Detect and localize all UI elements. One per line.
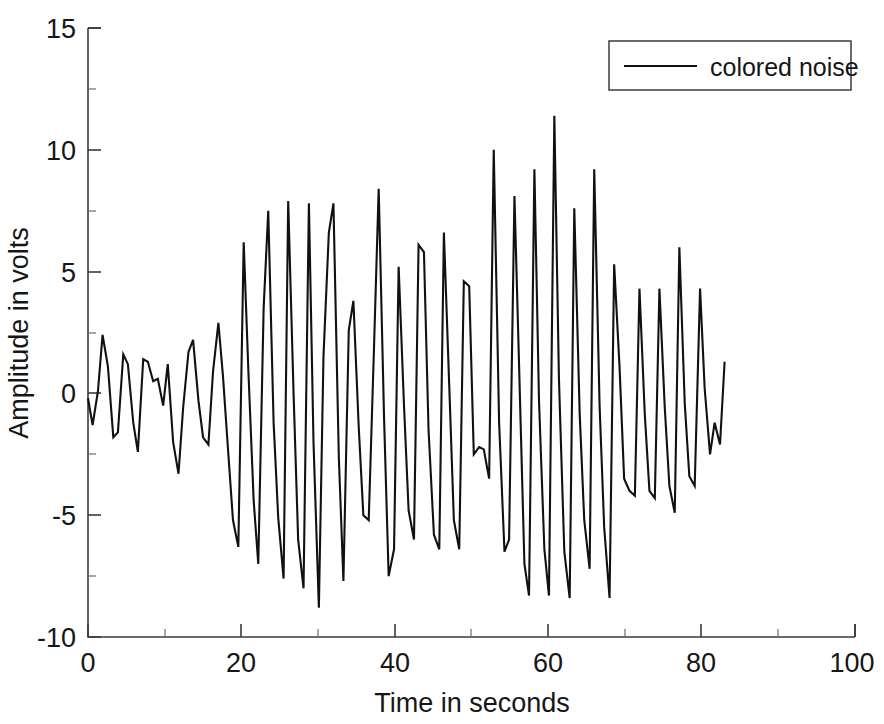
y-tick-label-0: 0 (61, 379, 76, 409)
x-tick-label-100: 100 (829, 648, 874, 678)
chart-figure: 15 10 5 0 -5 -10 0 20 40 60 80 100 Time … (0, 0, 884, 724)
x-axis-title: Time in seconds (374, 688, 570, 718)
y-tick-label-neg5: -5 (52, 501, 76, 531)
x-tick-label-40: 40 (380, 648, 410, 678)
chart-canvas: 15 10 5 0 -5 -10 0 20 40 60 80 100 Time … (0, 0, 884, 724)
legend[interactable]: colored noise (609, 41, 859, 90)
data-series-colored-noise (88, 116, 725, 608)
x-tick-label-0: 0 (80, 648, 95, 678)
x-tick-label-60: 60 (533, 648, 563, 678)
y-tick-label-15: 15 (46, 14, 76, 44)
y-tick-marks (88, 28, 101, 637)
y-tick-label-10: 10 (46, 136, 76, 166)
x-tick-marks (88, 624, 855, 637)
x-tick-label-80: 80 (686, 648, 716, 678)
y-tick-label-neg10: -10 (37, 623, 76, 653)
x-tick-label-20: 20 (226, 648, 256, 678)
y-axis-title: Amplitude in volts (4, 227, 34, 439)
legend-label-colored-noise: colored noise (710, 53, 859, 81)
y-tick-label-5: 5 (61, 258, 76, 288)
